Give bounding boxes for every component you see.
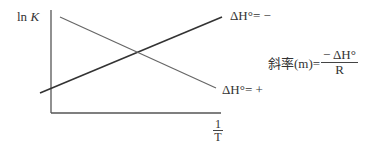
slope-prefix: 斜率(m)= [268,53,320,72]
slope-formula: 斜率(m)= − ΔH° R [268,48,358,77]
x-axis-label: 1 T [213,118,223,144]
line-delta-h-positive [60,17,216,88]
label-delta-h-positive: ΔH°= + [222,82,263,98]
y-axis-label: ln K [17,9,39,25]
x-label-denominator: T [214,131,221,144]
slope-numerator: − ΔH° [321,48,358,63]
slope-fraction: − ΔH° R [321,48,358,77]
slope-denominator: R [335,63,344,77]
label-delta-h-negative: ΔH°= − [230,8,271,24]
line-delta-h-negative [40,17,222,93]
